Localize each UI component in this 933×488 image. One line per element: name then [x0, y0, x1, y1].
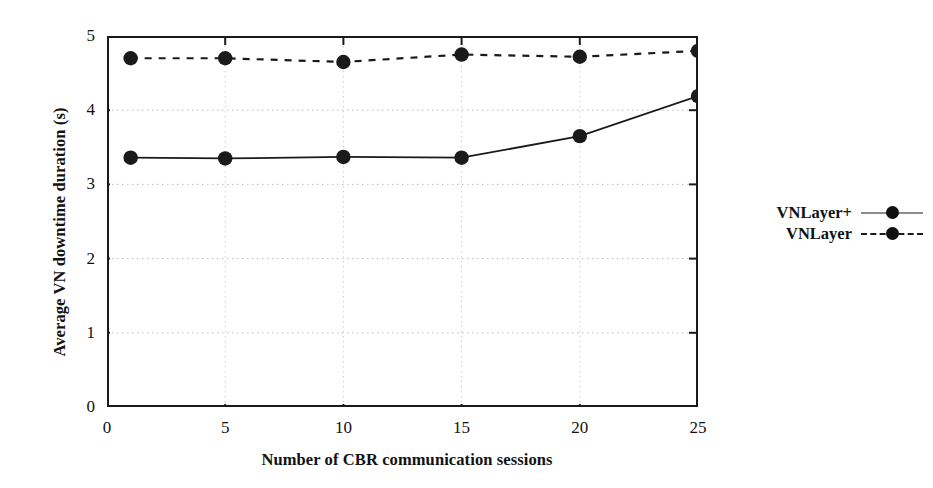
y-tick-label: 5	[87, 26, 96, 46]
y-tick-label: 2	[87, 249, 96, 269]
x-tick-label: 20	[571, 418, 588, 438]
data-point-marker	[218, 151, 232, 165]
data-point-marker	[573, 50, 587, 64]
y-tick-label: 4	[87, 100, 96, 120]
legend-item-0: VNLayer+	[748, 202, 923, 223]
x-axis-title: Number of CBR communication sessions	[107, 450, 707, 470]
plot-area: 012345 0510152025	[107, 36, 698, 407]
series-line-1	[131, 51, 698, 62]
y-tick-label: 0	[87, 397, 96, 417]
data-point-marker	[454, 47, 468, 61]
plot-canvas	[107, 36, 698, 407]
data-point-marker	[691, 44, 698, 58]
data-point-marker	[336, 150, 350, 164]
y-tick-label: 3	[87, 174, 96, 194]
x-tick-label: 0	[103, 418, 112, 438]
data-point-marker	[123, 150, 137, 164]
data-point-marker	[336, 55, 350, 69]
chart-legend: VNLayer+ VNLayer	[748, 202, 923, 244]
legend-item-1: VNLayer	[748, 223, 923, 244]
series-line-0	[131, 96, 698, 158]
y-tick-label: 1	[87, 323, 96, 343]
chart-figure: Average VN downtime duration (s) Number …	[0, 0, 933, 488]
data-point-marker	[123, 51, 137, 65]
data-point-marker	[691, 89, 698, 103]
data-point-marker	[454, 150, 468, 164]
x-tick-label: 15	[453, 418, 470, 438]
legend-label-series-0: VNLayer+	[777, 203, 852, 223]
legend-marker-circle	[886, 227, 899, 240]
x-tick-label: 10	[335, 418, 352, 438]
legend-swatch-series-0	[861, 204, 923, 222]
legend-marker-circle	[886, 206, 899, 219]
x-tick-label: 25	[690, 418, 707, 438]
data-point-marker	[218, 51, 232, 65]
y-axis-title: Average VN downtime duration (s)	[50, 67, 70, 397]
x-tick-label: 5	[221, 418, 230, 438]
legend-label-series-1: VNLayer	[786, 224, 852, 244]
legend-swatch-series-1	[861, 225, 923, 243]
data-point-marker	[573, 129, 587, 143]
